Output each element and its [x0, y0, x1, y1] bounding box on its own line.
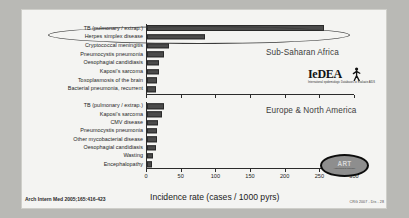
axis-tick	[146, 95, 147, 98]
bar	[147, 153, 153, 158]
bar	[147, 112, 162, 117]
art-badge: ART Antiretroviral Therapy	[320, 154, 369, 177]
axis-tick-label: 250	[315, 173, 324, 179]
slide-background: TB (pulmonary / extrap.)Herpes simplex d…	[0, 0, 409, 218]
bar-row	[147, 24, 354, 33]
category-label: Kaposi's sarcoma	[22, 67, 146, 76]
bar	[147, 86, 156, 91]
x-axis-title: Incidence rate (cases / 1000 pyrs)	[150, 192, 279, 202]
axis-tick-label: 0	[144, 173, 147, 179]
region-title-africa: Sub-Saharan Africa	[266, 48, 339, 57]
bar	[147, 25, 324, 31]
bar	[147, 137, 157, 142]
bar	[147, 43, 169, 48]
category-label: Other mycobacterial disease	[22, 135, 146, 143]
iedea-person-icon	[352, 67, 361, 81]
axis-tick	[181, 95, 182, 98]
bar	[147, 103, 164, 108]
category-label: Herpes simplex disease	[22, 33, 146, 42]
bar	[147, 162, 152, 167]
category-label: Pneumocystis pneumonia	[22, 127, 146, 135]
axis-tick	[319, 169, 320, 172]
axis-tick-label: 200	[280, 173, 289, 179]
category-label: Encephalopathy	[22, 160, 146, 168]
category-labels-bottom: TB (pulmonary / extrap.)Kaposi's sarcoma…	[22, 102, 146, 168]
iedea-logo: IeDEA International epidemiologic Databa…	[308, 68, 360, 88]
axis-tick	[215, 169, 216, 172]
axis-tick	[250, 95, 251, 98]
region-title-europe: Europe & North America	[266, 106, 356, 115]
axis-tick	[285, 169, 286, 172]
bar	[147, 145, 156, 150]
category-label: TB (pulmonary / extrap.)	[22, 102, 146, 110]
bar-row	[147, 33, 354, 42]
category-labels-top: TB (pulmonary / extrap.)Herpes simplex d…	[22, 24, 146, 94]
axis-tick	[215, 95, 216, 98]
citation-text: Arch Intern Med 2005;165:416-423	[25, 196, 106, 202]
category-label: Cryptococcal meningitis	[22, 41, 146, 50]
category-label: TB (pulmonary / extrap.)	[22, 24, 146, 33]
bar	[147, 34, 205, 39]
category-label: Oesophagial candidiasis	[22, 59, 146, 68]
axis-tick-label: 150	[245, 173, 254, 179]
category-label: CMV disease	[22, 119, 146, 127]
bar	[147, 69, 159, 74]
category-label: Pneumocystis pneumonia	[22, 50, 146, 59]
bar	[147, 52, 164, 57]
bar-row	[147, 119, 354, 127]
x-axis-top	[146, 94, 354, 95]
bar-row	[147, 143, 354, 151]
art-tagline: Antiretroviral Therapy	[334, 167, 356, 170]
axis-tick	[354, 95, 355, 98]
category-label: Bacterial pneumonia, recurrent	[22, 85, 146, 94]
chart-plate: TB (pulmonary / extrap.)Herpes simplex d…	[22, 10, 386, 208]
bar	[147, 120, 158, 125]
bar	[147, 60, 159, 65]
axis-tick-label: 100	[211, 173, 220, 179]
panel-sub-saharan-africa: TB (pulmonary / extrap.)Herpes simplex d…	[22, 24, 386, 100]
axis-tick	[285, 95, 286, 98]
axis-tick	[181, 169, 182, 172]
category-label: Kaposi's sarcoma	[22, 110, 146, 118]
axis-tick	[146, 169, 147, 172]
bar-row	[147, 127, 354, 135]
bar-row	[147, 135, 354, 143]
axis-tick-label: 50	[178, 173, 184, 179]
axis-tick	[250, 169, 251, 172]
category-label: Wasting	[22, 152, 146, 160]
category-label: Toxoplasmosis of the brain	[22, 76, 146, 85]
axis-tick	[319, 95, 320, 98]
credit-text: CRG 2007 - Dis - 28	[350, 200, 384, 204]
bar	[147, 78, 157, 83]
category-label: Oesophagial candidiasis	[22, 143, 146, 151]
bar	[147, 128, 157, 133]
